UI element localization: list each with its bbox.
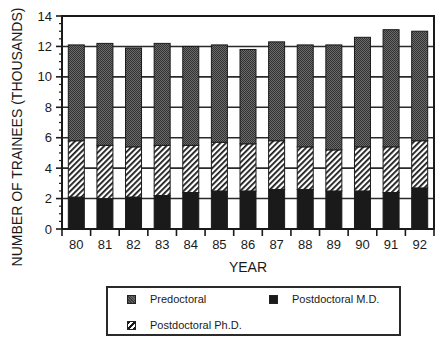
bar-segment [154, 196, 170, 229]
x-tick-label: 80 [69, 237, 83, 252]
bar-segment [97, 199, 113, 229]
bar-segment [240, 144, 256, 191]
bar-segment [68, 45, 84, 141]
x-axis-title: YEAR [229, 259, 267, 275]
bar-segment [154, 145, 170, 195]
bar-segment [269, 141, 285, 190]
x-tick-label: 82 [126, 237, 140, 252]
bar-stack-85 [211, 45, 227, 229]
bar-segment [383, 192, 399, 229]
predoctoral-swatch-icon [127, 295, 136, 304]
bar-segment [297, 147, 313, 190]
legend: Predoctoral Postdoctoral M.D. Postdoctor… [106, 286, 401, 336]
legend-label: Postdoctoral Ph.D. [150, 319, 242, 331]
bar-segment [326, 191, 342, 229]
legend-item-postdoc-md: Postdoctoral M.D. [269, 293, 379, 305]
bar-segment [183, 46, 199, 145]
bar-segment [297, 45, 313, 147]
bar-segment [68, 141, 84, 197]
y-tick-label: 6 [45, 130, 52, 145]
bar-segment [183, 192, 199, 229]
bar-segment [154, 43, 170, 145]
bar-stack-83 [154, 43, 170, 229]
legend-item-postdoc-phd: Postdoctoral Ph.D. [127, 319, 242, 331]
bar-segment [97, 145, 113, 198]
bar-segment [240, 49, 256, 143]
bar-segment [354, 191, 370, 229]
bar-stack-89 [326, 45, 342, 229]
bar-stack-87 [269, 42, 285, 229]
x-tick-label: 86 [241, 237, 255, 252]
y-tick-label: 4 [45, 161, 52, 176]
bar-stack-84 [183, 46, 199, 229]
bar-stack-80 [68, 45, 84, 229]
bar-stack-81 [97, 43, 113, 229]
x-tick-label: 84 [184, 237, 198, 252]
bar-stack-92 [412, 31, 428, 229]
bar-segment [240, 191, 256, 229]
bar-segment [326, 45, 342, 150]
stacked-bar-chart: 0246810121480818283848586878889909192 YE… [0, 0, 444, 285]
postdoc-phd-swatch-icon [127, 321, 136, 330]
y-tick-label: 0 [45, 222, 52, 237]
bar-segment [412, 31, 428, 141]
bar-segment [126, 48, 142, 147]
bar-segment [97, 43, 113, 145]
legend-label: Postdoctoral M.D. [292, 293, 379, 305]
bar-segment [412, 188, 428, 229]
bar-segment [211, 45, 227, 142]
legend-label: Predoctoral [150, 293, 206, 305]
x-tick-label: 88 [298, 237, 312, 252]
bar-segment [211, 142, 227, 191]
bar-segment [126, 147, 142, 197]
bar-stack-82 [126, 48, 142, 229]
x-tick-label: 83 [155, 237, 169, 252]
bar-segment [269, 42, 285, 141]
y-tick-label: 2 [45, 191, 52, 206]
bar-segment [126, 197, 142, 229]
x-tick-label: 90 [355, 237, 369, 252]
legend-item-predoctoral: Predoctoral [127, 293, 206, 305]
bar-segment [68, 197, 84, 229]
x-tick-label: 89 [327, 237, 341, 252]
bar-segment [412, 141, 428, 188]
bar-stack-90 [354, 37, 370, 229]
y-tick-label: 12 [38, 39, 52, 54]
bar-segment [383, 30, 399, 147]
bar-segment [211, 191, 227, 229]
x-tick-label: 92 [412, 237, 426, 252]
bar-stack-86 [240, 49, 256, 229]
bar-segment [269, 189, 285, 229]
bar-segment [354, 147, 370, 191]
y-tick-label: 14 [38, 9, 52, 24]
x-tick-label: 87 [269, 237, 283, 252]
bar-segment [183, 145, 199, 192]
bar-segment [383, 147, 399, 193]
postdoc-md-swatch-icon [269, 295, 278, 304]
y-tick-label: 10 [38, 69, 52, 84]
x-tick-label: 81 [98, 237, 112, 252]
bar-segment [326, 150, 342, 191]
x-tick-label: 91 [384, 237, 398, 252]
y-tick-label: 8 [45, 100, 52, 115]
bar-stack-91 [383, 30, 399, 229]
x-tick-label: 85 [212, 237, 226, 252]
y-axis-title: NUMBER OF TRAINEES (THOUSANDS) [9, 8, 25, 267]
bar-segment [354, 37, 370, 147]
bar-segment [297, 189, 313, 229]
bar-stack-88 [297, 45, 313, 229]
